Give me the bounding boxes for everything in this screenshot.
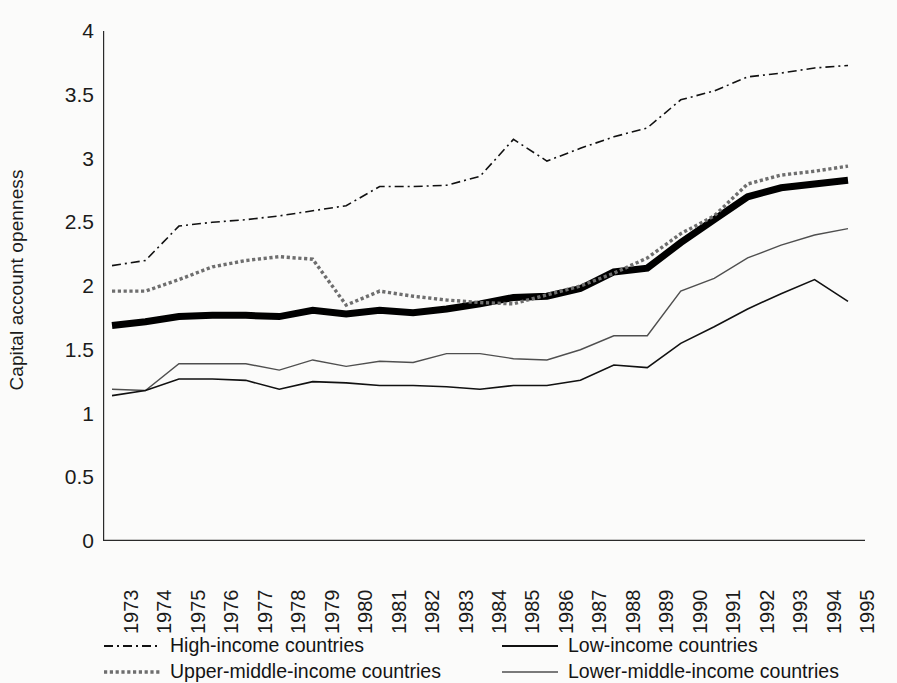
legend-swatch-dash-dot-icon <box>104 639 160 653</box>
x-tick-label: 1989 <box>655 548 675 634</box>
x-tick-label: 1995 <box>856 548 876 634</box>
x-tick-label: 1973 <box>120 548 140 634</box>
legend-swatch-solid-gray-icon <box>502 665 558 679</box>
x-tick-label: 1993 <box>789 548 809 634</box>
legend-item[interactable]: High-income countries <box>104 634 364 658</box>
x-tick-label: 1990 <box>689 548 709 634</box>
x-tick-label: 1976 <box>220 548 240 634</box>
legend-item[interactable]: Low-income countries <box>502 634 758 658</box>
x-tick-label: 1979 <box>321 548 341 634</box>
x-tick-label: 1994 <box>823 548 843 634</box>
x-tick-label: 1988 <box>622 548 642 634</box>
legend-label: Low-income countries <box>568 636 758 656</box>
legend-item[interactable]: Upper-middle-income countries <box>104 660 441 683</box>
x-tick-label: 1984 <box>488 548 508 634</box>
x-tick-label: 1983 <box>455 548 475 634</box>
x-tick-label: 1992 <box>756 548 776 634</box>
x-tick-label: 1978 <box>287 548 307 634</box>
x-tick-label: 1991 <box>722 548 742 634</box>
x-tick-label: 1980 <box>354 548 374 634</box>
legend-swatch-dotted-icon <box>104 665 160 679</box>
x-tick-label: 1977 <box>254 548 274 634</box>
chart-figure: Capital account openness 00.511.522.533.… <box>0 0 897 683</box>
x-tick-label: 1985 <box>521 548 541 634</box>
legend-label: Lower-middle-income countries <box>568 662 839 682</box>
legend-swatch-solid-icon <box>502 639 558 653</box>
x-tick-label: 1987 <box>588 548 608 634</box>
x-tick-label: 1975 <box>187 548 207 634</box>
legend-item[interactable]: Lower-middle-income countries <box>502 660 839 683</box>
x-tick-label: 1982 <box>421 548 441 634</box>
chart-legend: High-income countriesUpper-middle-income… <box>104 634 884 683</box>
x-tick-label: 1974 <box>153 548 173 634</box>
legend-label: High-income countries <box>170 636 364 656</box>
x-axis-tick-labels: 1973197419751976197719781979198019811982… <box>0 0 897 683</box>
legend-label: Upper-middle-income countries <box>170 662 441 682</box>
x-tick-label: 1986 <box>555 548 575 634</box>
x-tick-label: 1981 <box>388 548 408 634</box>
